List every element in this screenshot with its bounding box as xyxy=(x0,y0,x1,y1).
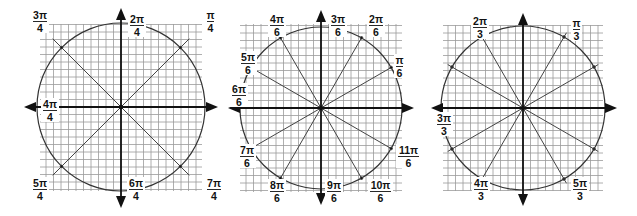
angle-label: 5π6 xyxy=(239,51,257,76)
label-numerator: 4π xyxy=(270,13,284,25)
arrow-down-icon xyxy=(116,196,126,208)
arrow-up-icon xyxy=(116,8,126,20)
label-numerator: 5π xyxy=(33,177,47,189)
angle-label: 4π4 xyxy=(41,98,59,123)
label-numerator: 8π xyxy=(270,179,284,191)
label-numerator: 2π xyxy=(473,15,487,27)
label-denominator: 6 xyxy=(378,192,384,204)
label-numerator: 2π xyxy=(130,13,144,25)
label-denominator: 4 xyxy=(208,22,214,34)
label-denominator: 6 xyxy=(244,157,250,169)
angle-label: 7π4 xyxy=(205,177,223,202)
label-numerator: π xyxy=(572,17,580,29)
diagram-canvas: 3π42π4π44π45π46π47π44π63π62π65π6π66π67π6… xyxy=(0,0,637,216)
label-numerator: 5π xyxy=(241,51,255,63)
angle-label: 5π3 xyxy=(571,177,589,202)
label-denominator: 4 xyxy=(211,190,217,202)
angle-label: 9π6 xyxy=(325,179,343,204)
label-numerator: 4π xyxy=(474,177,488,189)
label-denominator: 6 xyxy=(331,192,337,204)
label-numerator: 3π xyxy=(331,13,345,25)
arrow-down-icon xyxy=(518,194,528,206)
label-numerator: 6π xyxy=(232,83,246,95)
angle-label: 3π4 xyxy=(31,9,49,34)
angle-label: 7π6 xyxy=(238,144,256,169)
angle-labels: 3π42π4π44π45π46π47π4 xyxy=(31,9,223,202)
unit-circle-diagrams: 3π42π4π44π45π46π47π44π63π62π65π6π66π67π6… xyxy=(0,0,637,216)
angle-label: 5π4 xyxy=(31,177,49,202)
label-denominator: 4 xyxy=(37,190,43,202)
angle-label: 2π4 xyxy=(128,13,146,38)
angle-label: 2π3 xyxy=(471,15,489,40)
label-numerator: 3π xyxy=(33,9,47,21)
angle-label: 3π6 xyxy=(329,13,347,38)
label-denominator: 6 xyxy=(236,96,242,108)
arrow-right-icon xyxy=(605,103,617,113)
unit-circle-sixth-pi: 4π63π62π65π6π66π67π611π68π69π610π6 xyxy=(228,10,421,205)
label-denominator: 4 xyxy=(47,111,53,123)
label-numerator: 4π xyxy=(43,98,57,110)
label-denominator: 3 xyxy=(574,30,580,42)
angle-label: 6π6 xyxy=(230,83,248,108)
label-denominator: 4 xyxy=(134,26,140,38)
label-denominator: 6 xyxy=(274,192,280,204)
arrow-right-icon xyxy=(402,103,414,113)
angle-label: π6 xyxy=(394,54,405,79)
unit-circle-third-pi: 2π3π33π34π35π3 xyxy=(431,13,617,206)
angle-label: 4π6 xyxy=(268,13,286,38)
angle-label: 3π3 xyxy=(435,112,453,137)
angle-label: 6π4 xyxy=(127,177,145,202)
arrow-up-icon xyxy=(316,10,326,22)
label-denominator: 4 xyxy=(133,190,139,202)
arrow-left-icon xyxy=(24,102,36,112)
label-numerator: 2π xyxy=(369,13,383,25)
label-numerator: π xyxy=(206,9,214,21)
unit-circle-quarter-pi: 3π42π4π44π45π46π47π4 xyxy=(24,8,223,208)
label-denominator: 6 xyxy=(274,26,280,38)
label-numerator: 11π xyxy=(399,144,418,156)
angle-label: 2π6 xyxy=(367,13,385,38)
label-numerator: 3π xyxy=(437,112,451,124)
label-denominator: 6 xyxy=(245,64,251,76)
label-numerator: 10π xyxy=(371,179,391,191)
angle-label: 10π6 xyxy=(368,179,393,204)
label-numerator: 7π xyxy=(240,144,254,156)
angle-label: π4 xyxy=(205,9,216,34)
angle-label: π3 xyxy=(571,17,582,42)
label-numerator: 6π xyxy=(129,177,143,189)
arrow-up-icon xyxy=(518,13,528,25)
label-numerator: 7π xyxy=(207,177,221,189)
label-denominator: 3 xyxy=(478,190,484,202)
angle-label: 4π3 xyxy=(472,177,490,202)
label-numerator: π xyxy=(395,54,403,66)
label-denominator: 4 xyxy=(37,22,43,34)
label-denominator: 6 xyxy=(335,26,341,38)
label-denominator: 6 xyxy=(373,26,379,38)
arrow-right-icon xyxy=(206,102,218,112)
label-numerator: 5π xyxy=(573,177,587,189)
angle-label: 11π6 xyxy=(396,144,421,169)
label-denominator: 6 xyxy=(397,67,403,79)
arrow-down-icon xyxy=(316,193,326,205)
label-denominator: 3 xyxy=(441,125,447,137)
angle-label: 8π6 xyxy=(268,179,286,204)
label-numerator: 9π xyxy=(327,179,341,191)
label-denominator: 3 xyxy=(577,190,583,202)
label-denominator: 3 xyxy=(477,28,483,40)
label-denominator: 6 xyxy=(406,157,412,169)
